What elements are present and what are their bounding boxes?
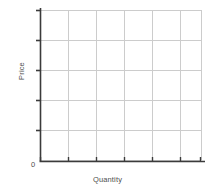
origin-label: 0 [28,161,38,169]
x-axis-title: Quantity [0,176,215,184]
chart-container: Price Quantity 0 [0,0,215,195]
y-axis-title: Price [18,41,26,101]
